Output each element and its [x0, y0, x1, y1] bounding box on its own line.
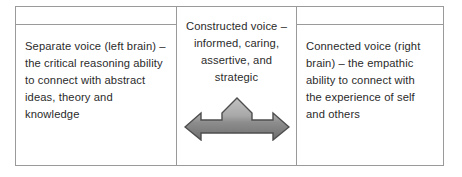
voice-table: Constructed voice – informed, caring, as… [15, 6, 444, 166]
left-column-cell: Separate voice (left brain) – the critic… [16, 25, 177, 166]
right-column-header-cell [297, 7, 444, 25]
left-column-text: Separate voice (left brain) – the critic… [16, 25, 176, 123]
three-way-arrow-icon [184, 95, 290, 141]
voice-diagram: Constructed voice – informed, caring, as… [0, 0, 462, 177]
right-column-text: Connected voice (right brain) – the empa… [297, 25, 443, 123]
middle-column-cell: Constructed voice – informed, caring, as… [177, 7, 297, 166]
left-column-header-cell [16, 7, 177, 25]
table-row-header: Constructed voice – informed, caring, as… [16, 7, 444, 25]
three-way-arrow-container [177, 95, 296, 141]
middle-column-text: Constructed voice – informed, caring, as… [177, 7, 296, 86]
right-column-cell: Connected voice (right brain) – the empa… [297, 25, 444, 166]
